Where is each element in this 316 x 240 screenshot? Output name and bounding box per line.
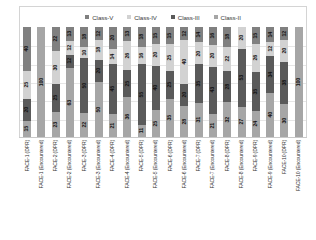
bar-segment-class-ii[interactable]: 100 (37, 27, 45, 137)
stacked-bar[interactable]: 40252015 (23, 27, 31, 137)
bar-segment-class-v[interactable]: 13 (66, 27, 74, 41)
stacked-bar[interactable]: 16204321 (209, 27, 217, 137)
bar-segment-class-iii[interactable]: 20 (180, 84, 188, 106)
bar-segment-class-v[interactable]: 15 (252, 27, 260, 44)
bar-segment-class-iv[interactable]: 26 (123, 41, 131, 70)
stacked-bar[interactable]: 18165511 (138, 27, 146, 137)
bar-segment-class-iii[interactable]: 12 (66, 55, 74, 68)
stacked-bar[interactable]: 22302523 (52, 27, 60, 137)
bar-segment-class-iv[interactable]: 10 (80, 47, 88, 58)
bar-segment-class-iii[interactable]: 53 (238, 49, 246, 107)
bar-slot: 13262536 (120, 27, 134, 137)
bar-segment-class-ii[interactable]: 21 (209, 114, 217, 137)
bar-segment-class-iii[interactable]: 50 (80, 58, 88, 113)
stacked-bar[interactable]: 20144521 (109, 27, 117, 137)
bar-segment-class-ii[interactable]: 11 (138, 125, 146, 137)
bar-segment-class-ii[interactable]: 15 (23, 121, 31, 138)
bar-segment-value: 15 (153, 33, 158, 39)
bar-segment-class-ii[interactable]: 36 (123, 97, 131, 137)
stacked-bar[interactable]: 18105022 (80, 27, 88, 137)
bar-segment-class-v[interactable]: 16 (209, 27, 217, 45)
bar-segment-class-iv[interactable]: 30 (52, 51, 60, 84)
bar-segment-class-iv[interactable]: 20 (209, 45, 217, 67)
bar-segment-class-iii[interactable]: 45 (109, 64, 117, 114)
bar-segment-class-iii[interactable]: 55 (138, 64, 146, 125)
bar-segment-class-iii[interactable]: 25 (166, 71, 174, 99)
bar-segment-class-iii[interactable]: 34 (266, 56, 274, 93)
bar-segment-class-v[interactable]: 15 (166, 27, 174, 44)
bar-segment-class-iv[interactable]: 12 (266, 42, 274, 55)
bar-segment-class-v[interactable]: 14 (195, 27, 203, 42)
stacked-bar[interactable]: 14203531 (195, 27, 203, 137)
bar-segment-class-iii[interactable]: 43 (209, 67, 217, 114)
bar-segment-class-iii[interactable]: 38 (280, 62, 288, 104)
bar-segment-class-v[interactable]: 18 (223, 27, 231, 47)
bar-segment-class-v[interactable]: 20 (109, 27, 117, 49)
stacked-bar[interactable]: 100 (295, 27, 303, 137)
stacked-bar[interactable]: 205327 (238, 27, 246, 137)
bar-segment-class-ii[interactable]: 100 (295, 27, 303, 137)
bar-segment-class-ii[interactable]: 24 (252, 111, 260, 137)
bar-segment-class-iv[interactable]: 20 (238, 27, 246, 49)
bar-segment-class-iii[interactable]: 25 (52, 84, 60, 112)
bar-segment-class-iv[interactable]: 25 (23, 71, 31, 99)
bar-segment-class-iii[interactable]: 25 (123, 70, 131, 98)
stacked-bar[interactable]: 14123440 (266, 27, 274, 137)
bar-segment-class-v[interactable]: 12 (280, 27, 288, 40)
bar-segment-class-iv[interactable]: 18 (95, 40, 103, 60)
bar-segment-class-iii[interactable]: 40 (152, 66, 160, 110)
stacked-bar[interactable]: 12182050 (95, 27, 103, 137)
bar-segment-class-v[interactable]: 12 (95, 27, 103, 40)
bar-segment-class-iv[interactable]: 26 (252, 44, 260, 73)
bar-segment-class-ii[interactable]: 50 (95, 82, 103, 137)
bar-segment-class-v[interactable]: 22 (52, 27, 60, 51)
stacked-bar[interactable]: 15252535 (166, 27, 174, 137)
bar-segment-class-iv[interactable]: 20 (152, 44, 160, 66)
bar-segment-class-ii[interactable]: 40 (266, 93, 274, 137)
stacked-bar[interactable]: 13262536 (123, 27, 131, 137)
bar-segment-class-iv[interactable]: 16 (138, 47, 146, 65)
bar-segment-class-iv[interactable]: 12 (66, 41, 74, 54)
bar-segment-class-v[interactable]: 12 (180, 27, 188, 40)
bar-segment-class-ii[interactable]: 30 (280, 104, 288, 137)
stacked-bar[interactable]: 15263524 (252, 27, 260, 137)
bar-segment-class-v[interactable]: 18 (138, 27, 146, 47)
bar-segment-value: 38 (282, 80, 287, 86)
stacked-bar[interactable]: 18222832 (223, 27, 231, 137)
bar-segment-class-v[interactable]: 18 (80, 27, 88, 47)
bar-segment-value: 45 (110, 86, 115, 92)
bar-segment-class-iii[interactable]: 20 (95, 60, 103, 82)
bar-segment-class-iv[interactable]: 20 (280, 40, 288, 62)
bar-segment-class-iii[interactable]: 28 (223, 71, 231, 102)
bar-segment-class-iii[interactable]: 20 (23, 99, 31, 121)
bar-segment-class-v[interactable]: 15 (152, 27, 160, 44)
bar-segment-class-iv[interactable]: 14 (109, 49, 117, 64)
bar-segment-class-iv[interactable]: 25 (166, 44, 174, 72)
bar-segment-class-ii[interactable]: 35 (166, 99, 174, 138)
stacked-bar[interactable]: 12203830 (280, 27, 288, 137)
bar-segment-class-ii[interactable]: 63 (66, 68, 74, 137)
bar-segment-class-ii[interactable]: 27 (238, 107, 246, 137)
bar-segment-class-ii[interactable]: 22 (80, 113, 88, 137)
x-axis-label: FACE-4 (Encountered) (125, 140, 130, 190)
bar-segment-class-ii[interactable]: 28 (180, 106, 188, 137)
bar-segment-class-v[interactable]: 13 (123, 27, 131, 41)
bar-segment-class-ii[interactable]: 21 (109, 114, 117, 137)
bar-segment-class-iv[interactable]: 22 (223, 47, 231, 71)
bar-segment-class-ii[interactable]: 25 (152, 110, 160, 138)
stacked-bar[interactable]: 12402028 (180, 27, 188, 137)
bar-segment-class-ii[interactable]: 31 (195, 103, 203, 137)
bar-segment-class-ii[interactable]: 32 (223, 102, 231, 137)
stacked-bar[interactable]: 15204025 (152, 27, 160, 137)
bar-segment-class-iii[interactable]: 35 (252, 72, 260, 111)
stacked-bar[interactable]: 13121263 (66, 27, 74, 137)
bar-segment-class-ii[interactable]: 23 (52, 112, 60, 137)
bar-segment-class-iii[interactable]: 35 (195, 64, 203, 103)
bar-segment-class-iv[interactable]: 40 (180, 40, 188, 84)
bar-segment-class-v[interactable]: 14 (266, 27, 274, 42)
bar-segment-class-v[interactable]: 40 (23, 27, 31, 71)
bar-segment-class-iv[interactable]: 20 (195, 42, 203, 64)
x-axis-label: FACE-2 (Encountered) (67, 140, 72, 190)
stacked-bar[interactable]: 100 (37, 27, 45, 137)
x-label-slot: FACE-8 (DPR) (220, 140, 234, 212)
